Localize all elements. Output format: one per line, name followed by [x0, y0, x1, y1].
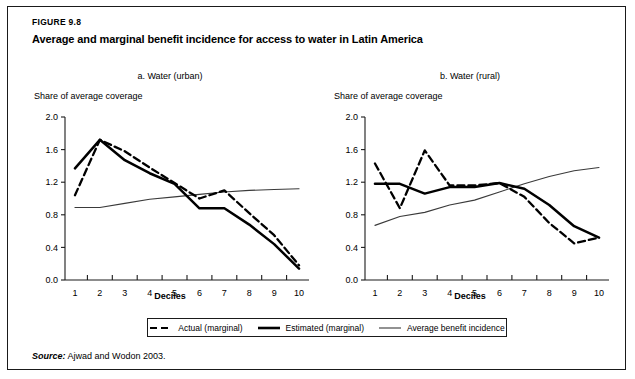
y-tick-label: 0.0: [45, 275, 58, 285]
legend-item-actual: Actual (marginal): [149, 323, 242, 333]
legend-label-actual: Actual (marginal): [178, 323, 242, 333]
source-note: Source: Ajwad and Wodon 2003.: [32, 351, 165, 361]
y-tick-label: 0.8: [45, 210, 58, 220]
series-line: [375, 150, 599, 243]
legend-swatch-thin-icon: [378, 324, 402, 332]
y-tick-label: 0.4: [45, 243, 58, 253]
y-tick-label: 1.2: [345, 177, 358, 187]
y-tick-label: 1.6: [345, 145, 358, 155]
series-line: [75, 189, 299, 208]
figure-frame: FIGURE 9.8 Average and marginal benefit …: [7, 6, 626, 370]
y-tick-label: 0.4: [345, 243, 358, 253]
source-text: Ajwad and Wodon 2003.: [68, 351, 166, 361]
chart-panel-b: b. Water (rural) Share of average covera…: [320, 67, 620, 312]
figure-number: FIGURE 9.8: [32, 17, 81, 27]
series-line: [75, 140, 299, 269]
y-tick-label: 2.0: [45, 112, 58, 122]
y-tick-label: 0.8: [345, 210, 358, 220]
series-line: [375, 183, 599, 238]
chart-legend: Actual (marginal) Estimated (marginal) A…: [147, 318, 507, 337]
legend-item-average: Average benefit incidence: [378, 323, 505, 333]
series-line: [75, 140, 299, 266]
y-tick-label: 1.6: [45, 145, 58, 155]
panel-b-plot: 0.00.40.81.21.62.012345678910: [320, 67, 620, 312]
chart-panel-a: a. Water (urban) Share of average covera…: [20, 67, 320, 312]
y-tick-label: 1.2: [45, 177, 58, 187]
panel-a-x-axis-label: Deciles: [20, 291, 320, 301]
source-label: Source:: [32, 351, 66, 361]
panel-a-plot: 0.00.40.81.21.62.012345678910: [20, 67, 320, 312]
series-line: [375, 168, 599, 226]
legend-label-estimated: Estimated (marginal): [286, 323, 364, 333]
y-tick-label: 2.0: [345, 112, 358, 122]
figure-title: Average and marginal benefit incidence f…: [32, 33, 423, 45]
panel-b-x-axis-label: Deciles: [320, 291, 620, 301]
y-tick-label: 0.0: [345, 275, 358, 285]
legend-label-average: Average benefit incidence: [407, 323, 505, 333]
legend-swatch-solid-icon: [257, 324, 281, 332]
legend-item-estimated: Estimated (marginal): [257, 323, 364, 333]
legend-swatch-dashed-icon: [149, 324, 173, 332]
